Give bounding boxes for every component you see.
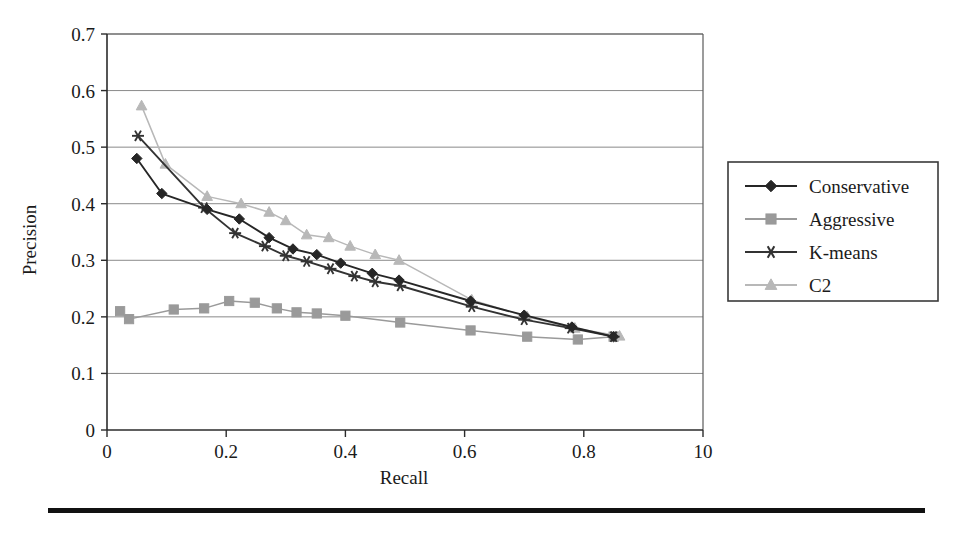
y-tick-label-5: 0.5: [71, 137, 95, 158]
x-tick-label-3: 0.6: [453, 441, 477, 462]
y-tick-label-3: 0.3: [71, 250, 95, 271]
x-tick-label-0: 0: [102, 441, 112, 462]
y-tick-label-4: 0.4: [71, 194, 95, 215]
x-tick-label-4: 0.8: [572, 441, 596, 462]
square-marker-icon: [573, 335, 582, 344]
square-marker-icon: [200, 304, 209, 313]
y-tick-label-0: 0: [86, 420, 96, 441]
x-axis-title: Recall: [380, 467, 429, 488]
y-tick-label-1: 0.1: [71, 363, 95, 384]
y-tick-label-6: 0.6: [71, 81, 95, 102]
square-marker-icon: [466, 326, 475, 335]
y-axis-title: Precision: [19, 204, 40, 275]
square-marker-icon: [225, 296, 234, 305]
square-marker-icon: [766, 214, 776, 224]
square-marker-icon: [312, 309, 321, 318]
square-marker-icon: [124, 315, 133, 324]
legend-item-label: Aggressive: [809, 209, 894, 230]
x-tick-label-5: 10: [694, 441, 713, 462]
y-tick-label-7: 0.7: [71, 24, 95, 45]
precision-recall-chart: 00.10.20.30.40.50.60.7 00.20.40.60.810 R…: [0, 0, 971, 533]
square-marker-icon: [292, 308, 301, 317]
bottom-horizontal-rule: [48, 508, 925, 513]
square-marker-icon: [272, 304, 281, 313]
legend-item-label: K-means: [809, 242, 878, 263]
x-tick-label-2: 0.4: [334, 441, 358, 462]
square-marker-icon: [341, 311, 350, 320]
legend-item-label: C2: [809, 275, 831, 296]
square-marker-icon: [523, 332, 532, 341]
square-marker-icon: [250, 298, 259, 307]
y-tick-label-2: 0.2: [71, 307, 95, 328]
chart-legend[interactable]: ConservativeAggressiveK-meansC2: [728, 162, 938, 301]
x-tick-label-1: 0.2: [214, 441, 238, 462]
square-marker-icon: [116, 307, 125, 316]
square-marker-icon: [169, 305, 178, 314]
square-marker-icon: [396, 318, 405, 327]
precision-recall-figure: 00.10.20.30.40.50.60.7 00.20.40.60.810 R…: [0, 0, 971, 533]
legend-item-label: Conservative: [809, 176, 909, 197]
